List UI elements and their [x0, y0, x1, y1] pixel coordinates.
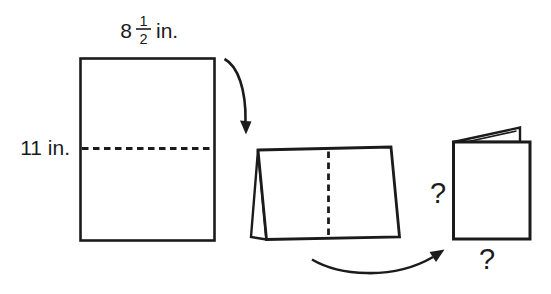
- sheet-height-label: 11 in.: [20, 136, 70, 159]
- second-fold-arrow-curve: [312, 257, 433, 273]
- card-front-face: [454, 142, 531, 239]
- width-fraction-denominator: 2: [139, 31, 147, 47]
- unknown-height-label: ?: [430, 177, 446, 209]
- paper-folding-diagram: 8 1 2 in. 11 in. ?: [0, 0, 551, 294]
- unknown-width-label: ?: [479, 243, 495, 275]
- sheet-width-label: 8 1 2 in.: [120, 13, 178, 47]
- diagram-canvas: 8 1 2 in. 11 in. ?: [0, 0, 551, 294]
- width-unit: in.: [156, 19, 178, 42]
- unfolded-sheet: [81, 59, 215, 241]
- second-fold-arrow: [312, 250, 445, 274]
- width-fraction-numerator: 1: [139, 13, 147, 29]
- first-fold-arrow-curve: [225, 59, 246, 121]
- card-back-flap: [454, 128, 521, 143]
- first-fold-arrowhead-icon: [240, 121, 252, 135]
- second-fold-arrowhead-icon: [430, 250, 445, 263]
- half-folded-sheet: [251, 147, 400, 240]
- half-fold-front-face: [258, 147, 400, 240]
- first-fold-arrow: [225, 59, 252, 135]
- width-whole-number: 8: [120, 19, 132, 42]
- quarter-folded-card: [454, 128, 531, 240]
